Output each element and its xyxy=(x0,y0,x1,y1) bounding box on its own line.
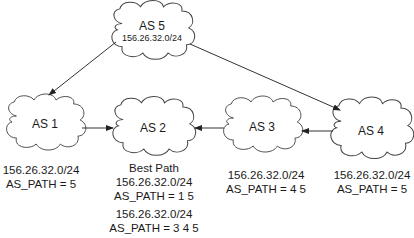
label-as5: AS 5 156.26.32.0/24 xyxy=(112,19,192,44)
as3-route-info: 156.26.32.0/24 AS_PATH = 4 5 xyxy=(220,168,312,196)
as2-alt-prefix: 156.26.32.0/24 xyxy=(108,207,200,221)
as4-route-info: 156.26.32.0/24 AS_PATH = 5 xyxy=(330,168,414,196)
label-as2: AS 2 xyxy=(123,121,183,135)
as2-alt-as-path: AS_PATH = 3 4 5 xyxy=(108,221,200,235)
best-path-label: Best Path xyxy=(108,161,200,175)
as1-as-path: AS_PATH = 5 xyxy=(0,177,82,191)
as5-prefix: 156.26.32.0/24 xyxy=(112,33,192,44)
as1-prefix: 156.26.32.0/24 xyxy=(0,163,82,177)
label-as4: AS 4 xyxy=(341,124,401,138)
as3-as-path: AS_PATH = 4 5 xyxy=(220,182,312,196)
as2-best-as-path: AS_PATH = 1 5 xyxy=(108,189,200,203)
as3-prefix: 156.26.32.0/24 xyxy=(220,168,312,182)
as4-prefix: 156.26.32.0/24 xyxy=(330,168,414,182)
as1-route-info: 156.26.32.0/24 AS_PATH = 5 xyxy=(0,163,82,191)
as5-name: AS 5 xyxy=(139,19,165,33)
as2-best-prefix: 156.26.32.0/24 xyxy=(108,175,200,189)
label-as1: AS 1 xyxy=(15,117,75,131)
as2-route-info: Best Path 156.26.32.0/24 AS_PATH = 1 5 1… xyxy=(108,161,200,235)
label-as3: AS 3 xyxy=(232,120,292,134)
arrow-as5-to-as1 xyxy=(49,42,116,95)
as4-as-path: AS_PATH = 5 xyxy=(330,182,414,196)
